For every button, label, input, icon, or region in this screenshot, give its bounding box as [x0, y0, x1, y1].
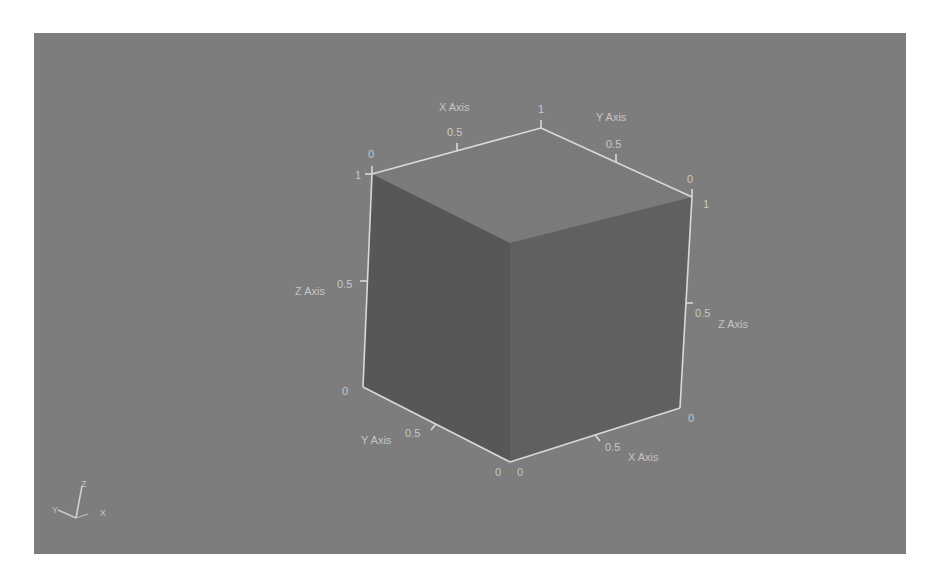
x-axis-top-title: X Axis — [439, 101, 470, 113]
x-axis-top-tick-0: 0 — [368, 148, 374, 160]
x-axis-bottom-title: X Axis — [628, 451, 659, 463]
z-axis-left-tick-1: 1 — [355, 169, 361, 181]
x-axis-top-tick-05: 0.5 — [447, 126, 462, 138]
orientation-axes-widget: Z Y X — [52, 479, 106, 518]
y-axis-bottom-tick-05: 0.5 — [405, 427, 420, 439]
z-axis-right-tick-05: 0.5 — [695, 307, 710, 319]
3d-render-viewport[interactable]: X Axis 0 0.5 1 Y Axis 0.5 0 1 0.5 Z Axis… — [34, 33, 906, 554]
x-axis-top-tick-1: 1 — [538, 103, 544, 115]
orientation-x-axis — [76, 514, 88, 518]
z-axis-right-tick-1: 1 — [703, 198, 709, 210]
z-axis-left-tick-05: 0.5 — [337, 278, 352, 290]
cube-right-face — [510, 197, 692, 462]
orientation-z-label: Z — [81, 479, 87, 489]
z-axis-left-title: Z Axis — [295, 285, 325, 297]
y-axis-bottom-tick-0: 0 — [495, 466, 501, 478]
y-axis-top-title: Y Axis — [596, 111, 627, 123]
cube-scene[interactable]: X Axis 0 0.5 1 Y Axis 0.5 0 1 0.5 Z Axis… — [34, 33, 906, 554]
y-axis-top-tick-05: 0.5 — [606, 138, 621, 150]
x-axis-bottom-tick-05: 0.5 — [605, 441, 620, 453]
tick-bottom-y-05 — [431, 424, 436, 430]
orientation-x-label: X — [100, 508, 106, 518]
orientation-z-axis — [76, 486, 82, 518]
x-axis-bottom-tick-0: 0 — [517, 466, 523, 478]
orientation-y-axis — [58, 510, 76, 518]
y-axis-bottom-title: Y Axis — [361, 434, 392, 446]
z-axis-right-tick-0: 0 — [688, 412, 694, 424]
z-axis-right-title: Z Axis — [718, 318, 748, 330]
orientation-y-label: Y — [52, 505, 58, 515]
z-axis-left-tick-0: 0 — [342, 385, 348, 397]
tick-bottom-x-05 — [595, 435, 600, 441]
y-axis-top-tick-0: 0 — [687, 173, 693, 185]
